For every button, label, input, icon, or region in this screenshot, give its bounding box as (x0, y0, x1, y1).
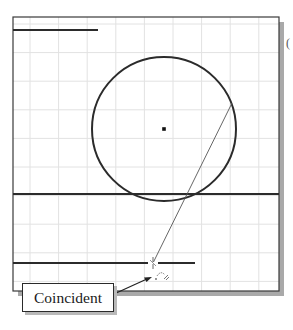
viewport-background (13, 17, 279, 291)
sketch-graphics[interactable] (0, 0, 293, 330)
coincident-callout: Coincident (22, 283, 114, 312)
sketch-canvas[interactable]: Coincident ( (0, 0, 293, 330)
circle-center-point[interactable] (162, 127, 166, 131)
cropped-text-fragment: ( (286, 36, 290, 51)
callout-label: Coincident (34, 289, 102, 307)
